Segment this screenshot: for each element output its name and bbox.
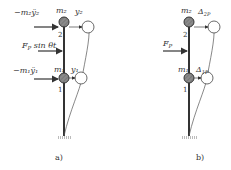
load-label: FP bbox=[162, 39, 173, 49]
disp-1-label: y₁ bbox=[70, 65, 79, 74]
two-mass-cantilever-diagram: −m₂ÿ₂ FP sin θt −m₁ÿ₁ m₂ m₁ y₂ y₁ 2 1 a)… bbox=[0, 0, 231, 170]
node-2-label: 2 bbox=[58, 31, 62, 39]
inertia-force-bottom-label: −m₁ÿ₁ bbox=[13, 66, 38, 75]
panel-a: −m₂ÿ₂ FP sin θt −m₁ÿ₁ m₂ m₁ y₂ y₁ 2 1 a) bbox=[13, 6, 94, 162]
node-1-label: 1 bbox=[58, 86, 62, 94]
disp-2-label: y₂ bbox=[74, 7, 83, 16]
excitation-label: FP sin θt bbox=[21, 41, 57, 51]
caption-a: a) bbox=[55, 153, 63, 162]
mass-2-label: m₂ bbox=[181, 6, 192, 15]
panel-b: FP m₂ m₁ Δ2P Δ1P 2 1 b) bbox=[162, 6, 220, 162]
disp-1-label: Δ1P bbox=[195, 65, 209, 75]
node-1-label: 1 bbox=[183, 86, 187, 94]
mass-2-label: m₂ bbox=[56, 6, 67, 15]
caption-b: b) bbox=[196, 153, 204, 162]
fixed-support bbox=[57, 136, 72, 139]
mass-1-label: m₁ bbox=[54, 65, 65, 74]
deflected-mass-2 bbox=[82, 21, 94, 33]
node-2-label: 2 bbox=[183, 31, 187, 39]
inertia-force-top-label: −m₂ÿ₂ bbox=[14, 8, 39, 17]
fixed-support bbox=[182, 136, 197, 139]
deflected-mass-2 bbox=[208, 21, 220, 33]
disp-2-label: Δ2P bbox=[197, 7, 211, 17]
mass-1-label: m₁ bbox=[178, 65, 189, 74]
